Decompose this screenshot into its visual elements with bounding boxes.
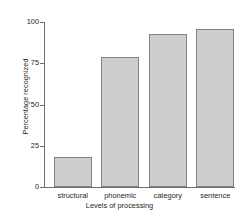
y-tick-label: 0 bbox=[35, 183, 39, 190]
x-tick-label-structural: structural bbox=[48, 192, 98, 199]
x-tick-label-phonemic: phonemic bbox=[95, 192, 145, 199]
bar-chart-figure: Percentage recognized 0 25 50 75 100 bbox=[0, 0, 239, 224]
y-tick-mark bbox=[40, 22, 44, 23]
y-tick-label: 75 bbox=[31, 60, 39, 67]
y-tick-mark bbox=[40, 63, 44, 64]
bar-category bbox=[149, 34, 187, 187]
plot-area: 0 25 50 75 100 structural phonemic categ… bbox=[44, 22, 234, 187]
y-tick-mark bbox=[40, 146, 44, 147]
x-axis-line bbox=[44, 187, 235, 188]
x-tick-label-sentence: sentence bbox=[190, 192, 239, 199]
y-tick-mark bbox=[40, 105, 44, 106]
y-tick-mark bbox=[40, 187, 44, 188]
bar-phonemic bbox=[101, 57, 139, 187]
y-tick-label: 25 bbox=[31, 142, 39, 149]
y-tick-label: 100 bbox=[27, 18, 39, 25]
bar-sentence bbox=[196, 29, 234, 187]
y-axis-title: Percentage recognized bbox=[21, 17, 30, 177]
x-tick-label-category: category bbox=[143, 192, 193, 199]
x-axis-title: Levels of processing bbox=[0, 201, 239, 210]
y-tick-label: 50 bbox=[31, 101, 39, 108]
bar-structural bbox=[54, 157, 92, 187]
y-axis-line bbox=[44, 22, 45, 187]
